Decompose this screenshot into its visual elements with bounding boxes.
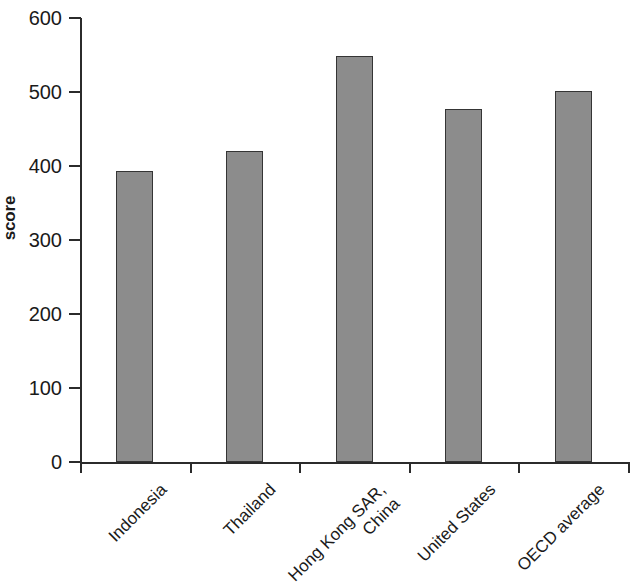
y-axis-tick-label: 400 [0, 156, 62, 176]
y-axis-tick-mark [69, 387, 81, 389]
y-axis-tick-mark [69, 239, 81, 241]
x-axis-tick-mark [80, 462, 82, 473]
bar [555, 91, 592, 462]
x-axis-tick-mark [628, 462, 630, 473]
y-axis-line [80, 18, 82, 464]
bar [116, 171, 153, 462]
x-axis-tick-mark [299, 462, 301, 473]
y-axis-tick-label: 0 [0, 452, 62, 472]
y-axis-tick-mark [69, 91, 81, 93]
x-axis-line [80, 462, 628, 464]
y-axis-tick-label: 200 [0, 304, 62, 324]
y-axis-tick-mark [69, 17, 81, 19]
y-axis-tick-label: 600 [0, 8, 62, 28]
bar [445, 109, 482, 462]
bar [336, 56, 373, 462]
y-axis-tick-label: 300 [0, 230, 62, 250]
bar-chart: score 0100200300400500600 IndonesiaThail… [0, 0, 634, 583]
y-axis-tick-mark [69, 313, 81, 315]
x-axis-tick-mark [518, 462, 520, 473]
x-axis-label: Indonesia [0, 480, 171, 583]
x-axis-tick-mark [409, 462, 411, 473]
y-axis-tick-label: 500 [0, 82, 62, 102]
x-axis-tick-mark [190, 462, 192, 473]
bar [226, 151, 263, 462]
y-axis-tick-label: 100 [0, 378, 62, 398]
y-axis-tick-mark [69, 165, 81, 167]
